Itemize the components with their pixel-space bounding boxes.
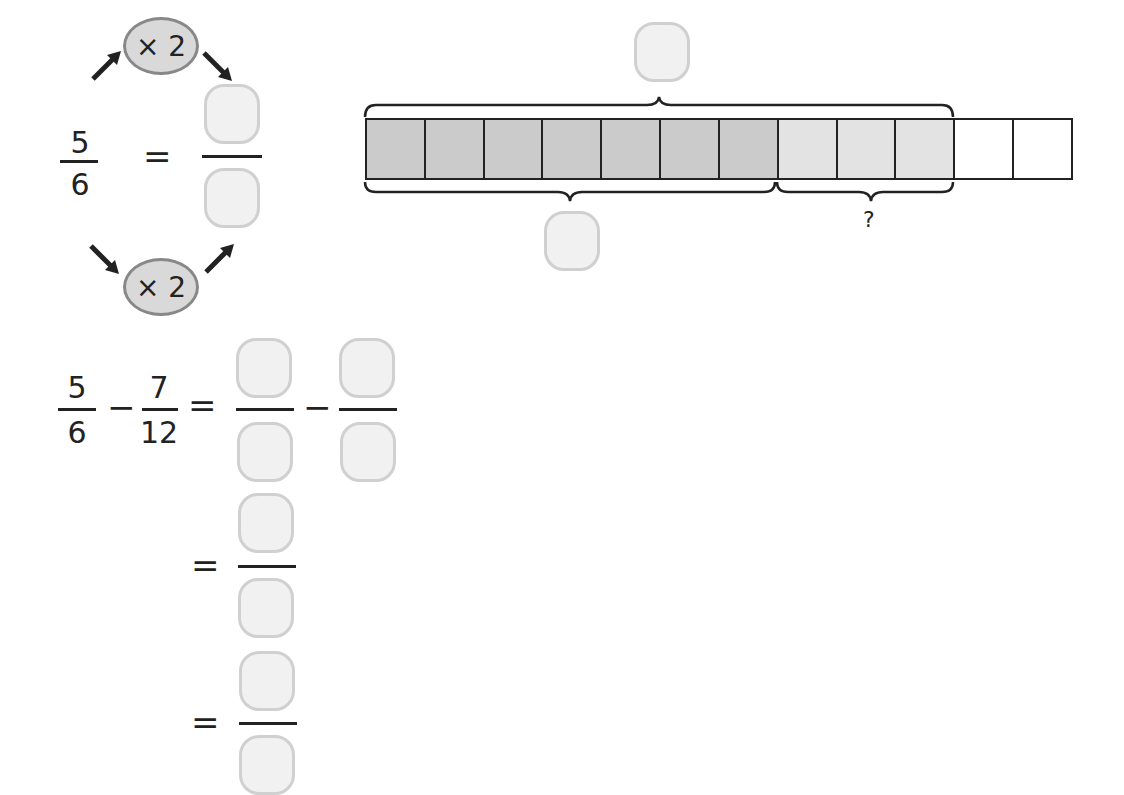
- fraction-bar: [239, 722, 297, 725]
- bottom-left-brace: [362, 180, 782, 204]
- fraction-bar: [236, 408, 294, 411]
- fraction-bar: [238, 565, 296, 568]
- step1-left-denominator-box[interactable]: [237, 422, 293, 482]
- arrow-down-right-icon: [85, 238, 125, 278]
- arrow-down-right-icon: [198, 45, 238, 85]
- fraction-bar: [339, 408, 397, 411]
- bar-cell-dark: [720, 120, 779, 178]
- fraction-bar: [142, 408, 178, 411]
- bar-cell-dark: [367, 120, 426, 178]
- bar-cell-dark: [543, 120, 602, 178]
- multiply-bottom-oval: × 2: [123, 258, 199, 316]
- bar-cell-empty: [1014, 120, 1071, 178]
- equals-sign: =: [191, 548, 220, 582]
- bar-part-answer-box[interactable]: [544, 211, 600, 271]
- fraction-denominator: 6: [60, 170, 100, 200]
- bar-cell-dark: [485, 120, 544, 178]
- bar-cell-dark: [602, 120, 661, 178]
- equals-sign: =: [188, 388, 217, 422]
- fraction-bar: [58, 408, 96, 411]
- answer-numerator-box[interactable]: [204, 84, 260, 144]
- step1-left-numerator-box[interactable]: [236, 338, 292, 398]
- step3-denominator-box[interactable]: [239, 735, 295, 795]
- first-denominator: 6: [57, 418, 97, 448]
- arrow-up-right-icon: [198, 238, 238, 278]
- multiplier-top-label: × 2: [136, 30, 186, 63]
- bar-cell-light: [896, 120, 955, 178]
- unknown-label: ?: [863, 207, 875, 232]
- minus-sign: −: [303, 390, 332, 424]
- step2-denominator-box[interactable]: [238, 578, 294, 638]
- bar-cell-light: [838, 120, 897, 178]
- bar-cell-light: [779, 120, 838, 178]
- bar-cell-dark: [661, 120, 720, 178]
- equals-sign: =: [143, 139, 172, 173]
- step1-right-denominator-box[interactable]: [340, 422, 396, 482]
- top-brace: [362, 95, 957, 119]
- bottom-right-brace: [774, 180, 959, 204]
- bar-cell-empty: [955, 120, 1014, 178]
- arrow-up-right-icon: [85, 45, 125, 85]
- answer-denominator-box[interactable]: [204, 168, 260, 228]
- fraction-bar: [60, 160, 98, 163]
- bar-cell-dark: [426, 120, 485, 178]
- step2-numerator-box[interactable]: [238, 493, 294, 553]
- multiply-top-oval: × 2: [123, 17, 199, 75]
- first-numerator: 5: [57, 373, 97, 403]
- second-numerator: 7: [141, 373, 177, 403]
- bar-model: [365, 118, 1073, 180]
- fraction-bar: [202, 155, 262, 158]
- bar-total-answer-box[interactable]: [634, 22, 690, 82]
- second-denominator: 12: [139, 418, 179, 448]
- minus-sign: −: [107, 390, 136, 424]
- equals-sign: =: [191, 705, 220, 739]
- multiplier-bottom-label: × 2: [136, 271, 186, 304]
- fraction-numerator: 5: [60, 128, 100, 158]
- step1-right-numerator-box[interactable]: [339, 338, 395, 398]
- step3-numerator-box[interactable]: [239, 651, 295, 711]
